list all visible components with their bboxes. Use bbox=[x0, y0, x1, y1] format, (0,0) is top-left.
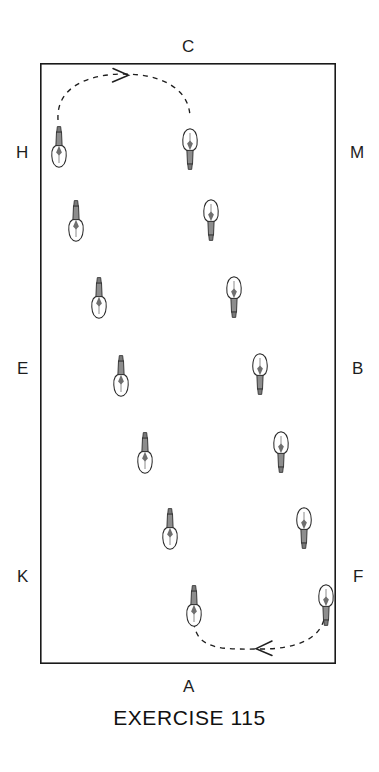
arena-marker-f: F bbox=[353, 568, 364, 585]
exercise-caption: EXERCISE 115 bbox=[0, 706, 379, 730]
arena-marker-k: K bbox=[17, 568, 29, 585]
arena-marker-e: E bbox=[17, 360, 29, 377]
exercise-diagram: C H M E B K F A EXERCISE 115 bbox=[0, 0, 379, 772]
arena-marker-m: M bbox=[350, 144, 364, 161]
arena-canvas bbox=[0, 0, 379, 772]
arena-marker-b: B bbox=[352, 360, 364, 377]
arena-marker-a: A bbox=[183, 678, 195, 695]
arena-marker-c: C bbox=[182, 38, 195, 55]
arena-marker-h: H bbox=[16, 144, 29, 161]
